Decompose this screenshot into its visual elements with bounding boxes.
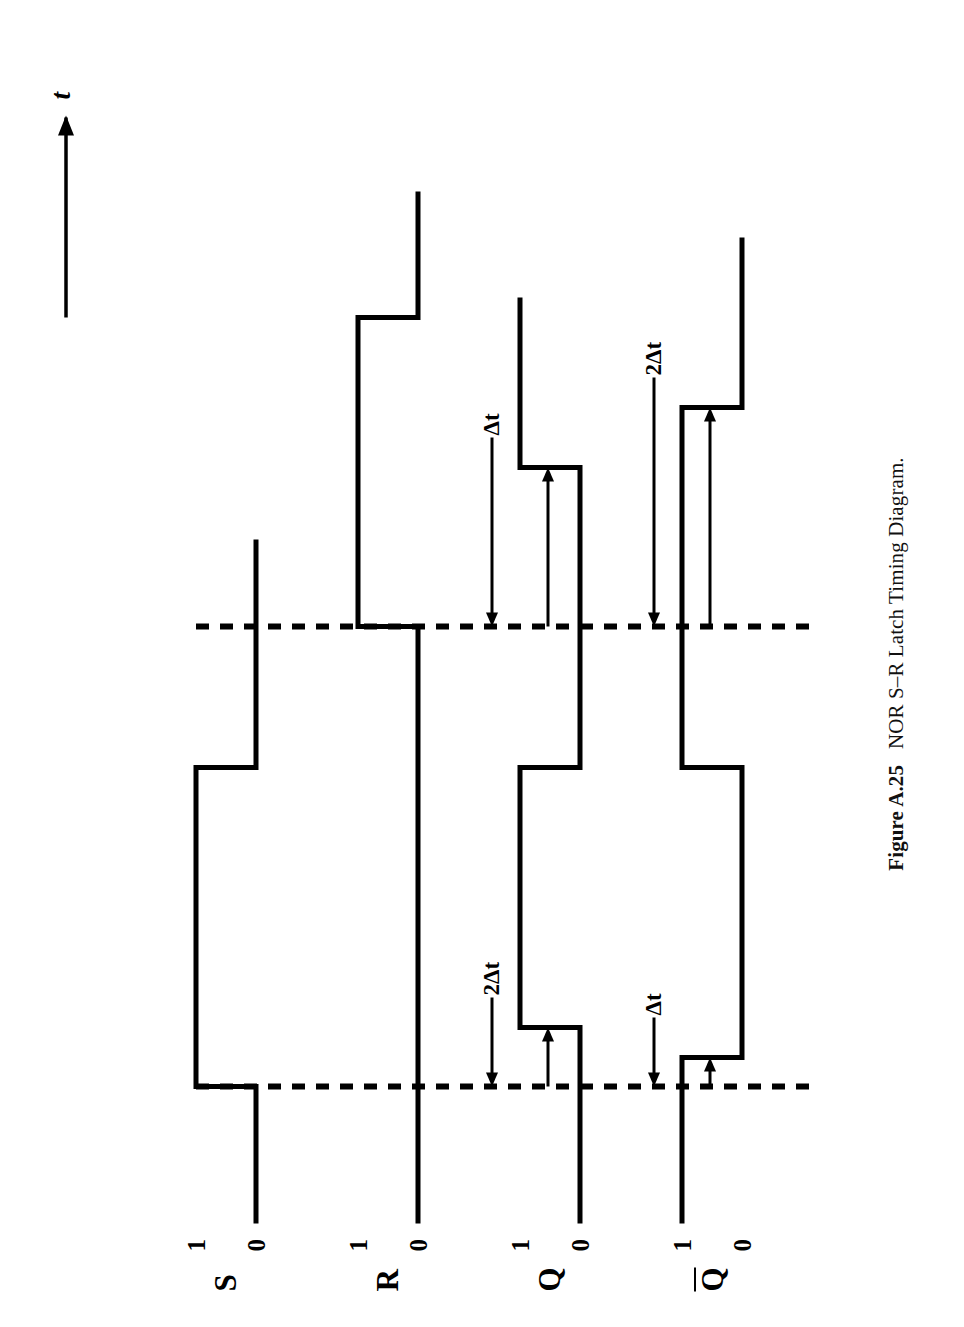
signal-label-qbar-text: Q bbox=[694, 1267, 728, 1291]
level-label-s-high: 1 bbox=[184, 1239, 209, 1252]
waveform-s bbox=[196, 539, 256, 1223]
level-label-q-low: 0 bbox=[568, 1239, 593, 1252]
signal-label-s: S bbox=[210, 1274, 241, 1291]
level-label-qbar-high: 1 bbox=[670, 1239, 695, 1252]
waveform-qbar bbox=[682, 237, 742, 1223]
waveform-q bbox=[520, 297, 580, 1223]
signal-label-r-text: R bbox=[370, 1269, 405, 1291]
signal-label-r: R bbox=[372, 1269, 403, 1291]
signal-label-q: Q bbox=[534, 1267, 565, 1291]
timing-diagram-figure: t S R Q Q 1 0 1 0 1 0 1 0 2Δt Δt Δt 2Δt bbox=[0, 0, 964, 1327]
figure-caption: Figure A.25NOR S–R Latch Timing Diagram. bbox=[884, 0, 909, 1327]
time-axis-label: t bbox=[48, 91, 75, 99]
figure-caption-text: NOR S–R Latch Timing Diagram. bbox=[884, 457, 908, 749]
level-label-r-low: 0 bbox=[406, 1239, 431, 1252]
level-label-r-high: 1 bbox=[346, 1239, 371, 1252]
signal-label-qbar: Q bbox=[694, 1267, 728, 1291]
annotation-label-q-second: Δt bbox=[480, 413, 503, 435]
signal-label-s-text: S bbox=[208, 1274, 243, 1291]
annotation-label-q-first: 2Δt bbox=[480, 961, 503, 995]
level-label-qbar-low: 0 bbox=[730, 1239, 755, 1252]
annotation-label-qbar-first: Δt bbox=[642, 993, 665, 1015]
time-axis-arrow bbox=[58, 115, 74, 317]
waveform-r bbox=[358, 191, 418, 1223]
timing-diagram-canvas bbox=[0, 0, 880, 1327]
level-label-q-high: 1 bbox=[508, 1239, 533, 1252]
signal-label-q-text: Q bbox=[532, 1267, 567, 1291]
rotated-figure-stage: t S R Q Q 1 0 1 0 1 0 1 0 2Δt Δt Δt 2Δt bbox=[0, 0, 964, 1327]
level-label-s-low: 0 bbox=[244, 1239, 269, 1252]
figure-caption-label: Figure A.25 bbox=[884, 764, 908, 870]
annotation-label-qbar-second: 2Δt bbox=[642, 341, 665, 375]
